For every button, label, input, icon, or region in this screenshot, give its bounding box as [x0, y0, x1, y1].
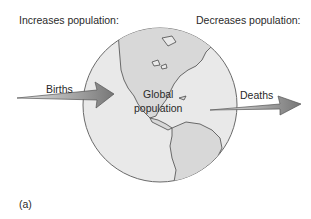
- decreases-population-heading: Decreases population:: [196, 14, 300, 26]
- births-label: Births: [46, 83, 73, 95]
- panel-label: (a): [19, 198, 32, 210]
- global-population-label: Global population: [134, 87, 182, 115]
- increases-population-heading: Increases population:: [19, 14, 119, 26]
- south-america-landmass: [170, 122, 222, 190]
- deaths-label: Deaths: [240, 89, 273, 101]
- global-label-line1: Global: [134, 87, 182, 101]
- global-label-line2: population: [134, 101, 182, 115]
